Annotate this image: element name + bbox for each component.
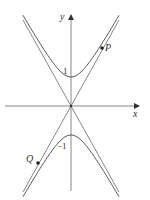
point-q-label: Q [26, 153, 34, 164]
hyperbola-svg: y x 1 −1 P Q [0, 0, 150, 200]
origin-point [70, 105, 72, 107]
lower-vertex-label: −1 [57, 141, 67, 151]
x-axis-label: x [132, 108, 138, 119]
point-p-label: P [104, 42, 111, 53]
hyperbola-figure: y x 1 −1 P Q [0, 0, 150, 200]
upper-vertex-label: 1 [63, 66, 68, 76]
point-q-marker [36, 161, 40, 165]
point-p-marker [100, 46, 104, 50]
y-axis-label: y [59, 11, 65, 22]
